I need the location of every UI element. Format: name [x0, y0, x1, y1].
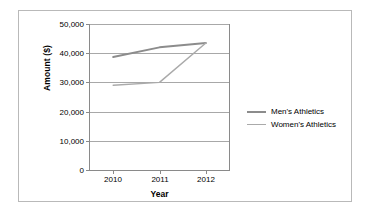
y-tick-label: 20,000 [60, 108, 84, 117]
series-line [113, 43, 206, 85]
legend-line-swatch-icon [247, 124, 266, 125]
y-axis-title: Amount ($) [42, 22, 52, 114]
y-tick-label: 30,000 [60, 78, 84, 87]
y-tick-label: 50,000 [60, 20, 84, 29]
x-tick-label: 2012 [197, 175, 215, 184]
series-lines [90, 24, 229, 170]
y-tick-label: 10,000 [60, 137, 84, 146]
x-tick-mark [113, 170, 114, 174]
chart-figure-frame: Amount ($) 010,00020,00030,00040,00050,0… [18, 10, 352, 202]
x-tick-label: 2010 [104, 175, 122, 184]
legend-label: Men's Athletics [271, 106, 324, 117]
legend-item[interactable]: Women's Athletics [247, 119, 352, 130]
x-tick-mark [206, 170, 207, 174]
legend-label: Women's Athletics [271, 119, 336, 130]
x-axis-title: Year [89, 189, 230, 199]
y-tick-label: 40,000 [60, 49, 84, 58]
chart-legend: Men's AthleticsWomen's Athletics [247, 106, 352, 132]
legend-line-swatch-icon [247, 111, 266, 113]
y-tick-mark [86, 170, 90, 171]
plot-area: 010,00020,00030,00040,00050,000 20102011… [89, 24, 230, 171]
x-tick-mark [160, 170, 161, 174]
x-tick-label: 2011 [151, 175, 168, 184]
y-tick-label: 0 [80, 166, 84, 175]
legend-item[interactable]: Men's Athletics [247, 106, 352, 117]
